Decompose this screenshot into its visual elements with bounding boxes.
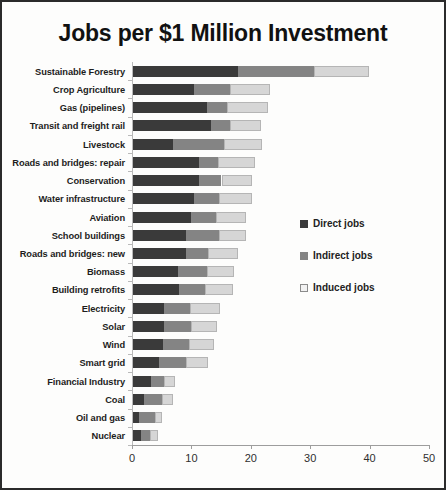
bar-segment-indirect [141, 430, 151, 441]
legend-swatch-direct-icon [300, 220, 308, 228]
bar-segment-induced [191, 321, 217, 332]
category-label: Wind [103, 340, 125, 350]
category-label: Transit and freight rail [30, 121, 125, 131]
bar-segment-indirect [238, 66, 314, 77]
y-axis-tick [128, 98, 132, 99]
legend-entry-indirect-jobs: Indirect jobs [300, 250, 410, 262]
bar-segment-induced [230, 120, 261, 131]
bar-segment-induced [208, 248, 238, 259]
bar-segment-indirect [211, 120, 230, 131]
bar-segment-direct [133, 102, 207, 113]
x-axis-tick [310, 445, 311, 449]
bar-segment-indirect [173, 139, 225, 150]
x-axis-tick [132, 445, 133, 449]
x-axis-tick-label: 20 [236, 452, 266, 464]
bar-segment-induced [314, 66, 370, 77]
bar-segment-direct [133, 321, 164, 332]
category-label: Roads and bridges: new [20, 249, 125, 259]
bar-segment-direct [133, 357, 159, 368]
x-axis-tick-label: 0 [117, 452, 147, 464]
y-axis-tick [128, 409, 132, 410]
bar-segment-direct [133, 120, 211, 131]
bar-segment-induced [216, 212, 247, 223]
bar-segment-induced [205, 284, 232, 295]
bar-segment-induced [230, 84, 270, 95]
y-axis-tick [128, 171, 132, 172]
category-label: Conservation [67, 176, 125, 186]
bar-segment-induced [164, 376, 175, 387]
bar-segment-induced [162, 394, 173, 405]
y-axis-tick [128, 117, 132, 118]
y-axis-tick [128, 336, 132, 337]
x-axis-tick [251, 445, 252, 449]
x-axis-tick [370, 445, 371, 449]
bar-segment-indirect [163, 339, 189, 350]
bar-segment-induced [219, 193, 252, 204]
y-axis-tick [128, 427, 132, 428]
category-label: School buildings [52, 231, 125, 241]
bar-segment-induced [186, 357, 209, 368]
bar-segment-indirect [164, 321, 191, 332]
bar-segment-induced [150, 430, 158, 441]
bar-segment-direct [133, 284, 179, 295]
x-axis-tick-label: 50 [414, 452, 444, 464]
bar-segment-indirect [207, 102, 227, 113]
category-label: Roads and bridges: repair [12, 158, 125, 168]
chart-plot-area-background: Jobs per $1 Million Investment 010203040… [2, 2, 444, 488]
legend-swatch-induced-icon [300, 284, 308, 292]
legend-entry-direct-jobs: Direct jobs [300, 218, 410, 230]
x-axis-tick-label: 40 [355, 452, 385, 464]
bar-segment-indirect [139, 412, 155, 423]
bar-segment-direct [133, 394, 144, 405]
y-axis-tick [128, 281, 132, 282]
x-axis-tick-label: 10 [176, 452, 206, 464]
category-label: Crop Agriculture [53, 85, 125, 95]
y-axis-tick [128, 190, 132, 191]
y-axis-tick [128, 263, 132, 264]
bar-segment-induced [222, 175, 253, 186]
category-label: Sustainable Forestry [35, 67, 125, 77]
y-axis-tick [128, 135, 132, 136]
legend-label-induced-jobs: Induced jobs [313, 282, 375, 293]
legend-swatch-indirect-icon [300, 252, 308, 260]
bar-segment-indirect [178, 266, 207, 277]
category-label: Aviation [89, 213, 125, 223]
y-axis-tick [128, 317, 132, 318]
bar-segment-direct [133, 157, 199, 168]
bar-segment-direct [133, 303, 164, 314]
bar-segment-indirect [144, 394, 162, 405]
bar-segment-direct [133, 339, 163, 350]
bar-segment-indirect [194, 84, 230, 95]
bar-segment-direct [133, 212, 191, 223]
y-axis-tick [128, 372, 132, 373]
category-label: Electricity [82, 304, 125, 314]
y-axis-tick [128, 226, 132, 227]
bar-segment-direct [133, 175, 199, 186]
bar-segment-direct [133, 430, 141, 441]
bar-segment-indirect [164, 303, 190, 314]
category-label: Solar [102, 322, 125, 332]
bar-segment-induced [224, 139, 262, 150]
category-label: Financial Industry [47, 377, 125, 387]
bar-segment-induced [219, 230, 247, 241]
y-axis-tick [128, 208, 132, 209]
category-label: Livestock [83, 140, 125, 150]
category-label: Nuclear [92, 431, 125, 441]
bar-segment-indirect [199, 157, 218, 168]
chart-frame: Jobs per $1 Million Investment 010203040… [0, 0, 446, 490]
bar-segment-indirect [151, 376, 164, 387]
bar-segment-induced [189, 339, 214, 350]
chart-legend: Direct jobs Indirect jobs Induced jobs [300, 218, 410, 314]
bar-segment-indirect [186, 248, 208, 259]
category-label: Coal [105, 395, 125, 405]
category-label: Water infrastructure [38, 194, 125, 204]
bar-segment-induced [207, 266, 234, 277]
bar-segment-induced [155, 412, 162, 423]
category-label: Oil and gas [76, 413, 125, 423]
y-axis-tick [128, 153, 132, 154]
category-label: Smart grid [80, 358, 126, 368]
bar-segment-direct [133, 66, 238, 77]
bar-segment-induced [218, 157, 255, 168]
y-axis-tick [128, 244, 132, 245]
y-axis-tick [128, 354, 132, 355]
